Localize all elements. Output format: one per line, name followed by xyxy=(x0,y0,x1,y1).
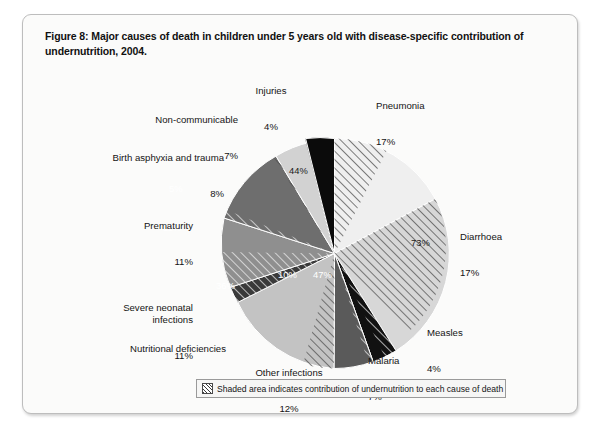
callout-other-infections-name: Other infections xyxy=(244,367,334,379)
callout-pneumonia-pct: 17% xyxy=(376,136,425,148)
inner-label-malaria-shaded: 10% xyxy=(278,269,297,280)
callout-prematurity-pct: 11% xyxy=(71,256,193,268)
callout-non-communicable-name: Non-communicable xyxy=(113,114,238,126)
callout-severe-neonatal-infections: Severe neonatal infections 11% xyxy=(71,278,193,386)
inner-label-measles-shaded: 47% xyxy=(313,269,332,280)
callout-non-communicable: Non-communicable 7% xyxy=(113,90,238,186)
inner-label-diarrhoea-shaded: 73% xyxy=(411,237,430,248)
figure-panel: Figure 8: Major causes of death in child… xyxy=(22,14,578,414)
callout-non-communicable-pct: 7% xyxy=(113,150,238,162)
inner-label-pneumonia-shaded: 44% xyxy=(289,165,308,176)
callout-diarrhoea: Diarrhoea 17% xyxy=(460,207,502,303)
callout-diarrhoea-pct: 17% xyxy=(460,267,502,279)
callout-pneumonia-name: Pneumonia xyxy=(376,100,425,112)
chart-legend: Shaded area indicates contribution of un… xyxy=(196,379,506,398)
callout-severe-neonatal-infections-name: Severe neonatal infections xyxy=(71,302,193,326)
callout-other-infections-pct: 12% xyxy=(244,403,334,415)
callout-injuries-name: Injuries xyxy=(236,85,306,97)
callout-diarrhoea-name: Diarrhoea xyxy=(460,231,502,243)
callout-measles-pct: 4% xyxy=(427,363,463,375)
pie-chart: 44% 73% 47% 10% 36% 45% 11% 5% Injuries … xyxy=(23,15,579,415)
callout-injuries: Injuries 4% xyxy=(236,61,306,157)
callout-malaria-name: Malaria xyxy=(368,355,399,367)
legend-label: Shaded area indicates contribution of un… xyxy=(217,384,503,394)
callout-measles-name: Measles xyxy=(427,327,463,339)
callout-pneumonia: Pneumonia 17% xyxy=(376,76,425,172)
callout-birth-asphyxia-and-trauma-pct: 8% xyxy=(61,188,224,200)
callout-severe-neonatal-infections-pct: 11% xyxy=(71,350,193,362)
callout-injuries-pct: 4% xyxy=(236,121,306,133)
inner-label-other-infections-shaded: 36% xyxy=(216,280,235,291)
hatched-square-icon xyxy=(202,383,213,394)
